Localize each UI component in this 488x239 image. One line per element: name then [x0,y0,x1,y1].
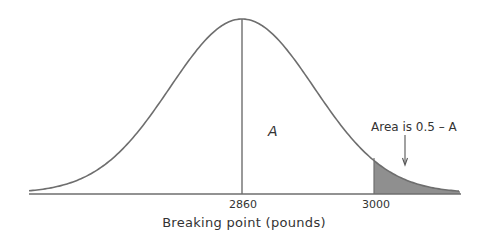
annotation-arrow [403,135,408,165]
tail-area-annotation: Area is 0.5 – A [371,120,457,134]
tick-label-3000: 3000 [362,198,390,211]
normal-curve [29,19,459,191]
tick-label-mean: 2860 [229,198,257,211]
x-axis-title: Breaking point (pounds) [162,215,326,230]
shaded-tail-region [374,161,460,194]
region-a-label: A [268,123,278,139]
